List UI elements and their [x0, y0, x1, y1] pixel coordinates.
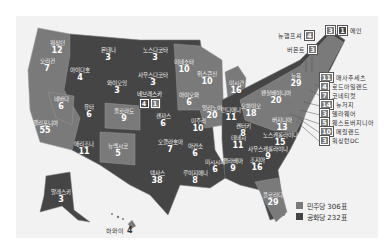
state-label-nc: 노스캐롤라이나15	[263, 133, 298, 147]
state-ev: 3	[138, 79, 168, 87]
callout-dc: 3워싱턴DC	[320, 136, 359, 145]
state-name: 워싱턴	[50, 41, 65, 47]
state-name: 코네티컷	[332, 91, 356, 100]
state-ev: 9	[114, 115, 134, 123]
state-name: 루이지애나	[183, 171, 208, 177]
state-name: 몬태나	[101, 48, 116, 54]
state-label-mt: 몬태나3	[101, 48, 116, 62]
ev-box-rep: 1	[338, 26, 347, 35]
state-name: 노스다코타	[143, 48, 168, 54]
state-label-ny: 뉴욕29	[290, 74, 301, 88]
state-label-ok: 오클라호마7	[158, 140, 183, 154]
callout-vt: 버몬트 3	[287, 45, 317, 54]
state-label-ca: 캘리포니아55	[33, 121, 58, 135]
state-ev: 13	[272, 124, 292, 132]
state-name: 와이오밍	[107, 81, 127, 87]
state-ev: 20	[261, 97, 291, 105]
state-name: 웨스트버지니아	[332, 118, 374, 127]
state-label-ut: 유타6	[84, 105, 94, 119]
state-name: 인디애나	[221, 108, 241, 114]
state-name: 아이오와	[179, 93, 199, 99]
state-ev: 29	[263, 199, 283, 207]
state-ev: 38	[150, 177, 165, 185]
state-ev: 3	[51, 196, 71, 204]
state-name: 미시간	[229, 81, 244, 87]
state-name: 뉴멕시코	[108, 144, 128, 150]
state-ev: 3	[101, 54, 116, 62]
state-name: 유타	[84, 105, 94, 111]
legend-swatch-democrat	[296, 202, 303, 209]
state-name: 콜로라도	[114, 109, 134, 115]
ev-box-dem: 3	[326, 26, 335, 35]
legend-item-republican: 공화당 232표	[296, 211, 347, 222]
state-ev: 18	[241, 110, 261, 118]
state-ev: 3	[143, 54, 168, 62]
state-name: 오클라호마	[158, 140, 183, 146]
state-ev: 4	[127, 226, 133, 235]
state-name: 뉴욕	[290, 74, 301, 80]
state-label-al: 앨라배마9	[223, 159, 243, 173]
state-ev: 10	[197, 78, 217, 86]
state-name: 켄터키	[236, 124, 251, 130]
state-label-tx: 텍사스38	[150, 171, 165, 185]
state-ev: 7	[40, 65, 55, 73]
callout-ct: 7코네티컷	[320, 91, 356, 100]
state-label-wa: 워싱턴12	[50, 41, 65, 55]
state-name: 캔자스	[156, 114, 171, 120]
state-name: 로드아일랜드	[332, 82, 368, 91]
state-name: 일리노이	[202, 106, 222, 112]
state-ev: 6	[179, 99, 199, 107]
state-name: 테네시	[231, 136, 246, 142]
state-ev: 55	[33, 127, 58, 135]
state-ev: 6	[84, 111, 94, 119]
state-name: 매사추세츠	[336, 73, 366, 82]
ev-box: 7	[320, 91, 329, 100]
state-label-pa: 펜실베이니아20	[261, 91, 291, 105]
state-ev: 6	[156, 120, 171, 128]
state-ev: 6	[54, 103, 69, 111]
state-label-sc: 사우스캐롤라이나9	[248, 147, 288, 161]
state-label-nm: 뉴멕시코5	[108, 144, 128, 158]
state-name: 네바다	[54, 97, 69, 103]
ev-box: 4	[320, 82, 329, 91]
state-ev: 6	[205, 166, 225, 174]
state-label-sd: 사우스다코타3	[138, 73, 168, 87]
state-name: 워싱턴DC	[332, 136, 359, 145]
callout-wv: 5웨스트버지니아	[320, 118, 374, 127]
state-label-va: 버지니아13	[272, 118, 292, 132]
state-name: 버몬트	[287, 45, 305, 54]
ev-box: 5	[320, 118, 329, 127]
state-label-nd: 노스다코타3	[143, 48, 168, 62]
state-label-wi: 위스콘신10	[197, 72, 217, 86]
state-ev: 16	[250, 164, 265, 172]
state-ev: 5	[108, 150, 128, 158]
legend-swatch-republican	[296, 213, 303, 220]
electoral-map-figure: 워싱턴12오리건7아이다호4몬태나3와이오밍3네바다6유타6콜로라도9캘리포니아…	[0, 0, 387, 249]
state-name: 미시시피	[205, 160, 225, 166]
state-ev: 20	[202, 112, 222, 120]
callout-md: 10메릴랜드	[320, 127, 360, 136]
state-name: 버지니아	[272, 118, 292, 124]
state-label-oh: 오하이오18	[241, 104, 261, 118]
state-label-mo: 미주리10	[191, 119, 206, 133]
state-label-ms: 미시시피6	[205, 160, 225, 174]
callout-de: 3델라웨어	[320, 109, 356, 118]
state-ev: 29	[290, 80, 301, 88]
ev-box: 3	[320, 109, 329, 118]
legend-label-democrat: 민주당 306표	[307, 201, 347, 211]
callout-ri: 4로드아일랜드	[320, 82, 368, 91]
state-label-wy: 와이오밍3	[107, 81, 127, 95]
ev-box: 4	[305, 31, 314, 40]
state-name: 노스캐롤라이나	[263, 133, 298, 139]
state-name: 델라웨어	[332, 109, 356, 118]
state-name: 텍사스	[150, 171, 165, 177]
state-name: 아칸소	[188, 144, 203, 150]
callout-nh: 뉴햄프셔 4	[278, 31, 314, 40]
state-ev: 3	[107, 87, 127, 95]
state-name: 캘리포니아	[33, 121, 58, 127]
state-ev: 9	[248, 153, 288, 161]
state-label-nv: 네바다6	[54, 97, 69, 111]
state-name: 아이다호	[70, 68, 90, 74]
state-label-az: 애리조나11	[74, 142, 94, 156]
state-name: 뉴햄프셔	[278, 31, 302, 40]
